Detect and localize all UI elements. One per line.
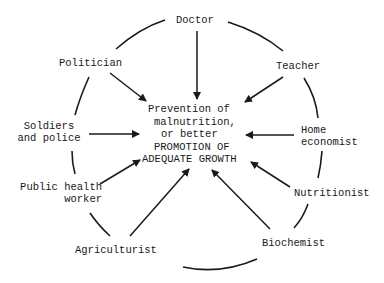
node-doctor: Doctor xyxy=(176,14,214,26)
arc-home-nutritionist xyxy=(318,151,322,178)
arc-politician-doctor xyxy=(116,20,165,49)
arc-soldiers-politician xyxy=(75,77,89,115)
node-public-health-line1: Public health xyxy=(10,181,102,193)
central-goal: Prevention of malnutrition, or better PR… xyxy=(136,103,286,166)
arc-biochemist-agriculturist xyxy=(183,259,257,270)
center-line3: or better xyxy=(161,128,311,141)
node-politician: Politician xyxy=(59,57,122,69)
node-biochemist: Biochemist xyxy=(262,237,325,249)
arc-doctor-teacher xyxy=(228,22,283,51)
arrow-politician xyxy=(110,73,146,101)
arrow-teacher xyxy=(245,77,283,102)
arc-publichealth-soldiers xyxy=(72,151,75,174)
center-line1: Prevention of xyxy=(148,103,298,116)
center-line5: ADEQUATE GROWTH xyxy=(142,153,292,166)
node-public-health-worker: Public health worker xyxy=(10,181,102,205)
node-teacher: Teacher xyxy=(276,60,320,72)
arrow-nutritionist xyxy=(251,162,290,187)
node-soldiers-line1: Soldiers xyxy=(17,120,81,132)
node-agriculturist: Agriculturist xyxy=(75,244,157,256)
arrow-public-health xyxy=(100,160,140,184)
node-soldiers-and-police: Soldiers and police xyxy=(17,120,81,144)
arrow-biochemist xyxy=(212,170,270,229)
center-line2: malnutrition, xyxy=(154,116,304,129)
arc-agriculturist-publichealth xyxy=(90,213,110,236)
arrow-agriculturist xyxy=(130,169,189,236)
node-public-health-line2: worker xyxy=(10,193,102,205)
arc-teacher-home xyxy=(304,78,318,118)
node-nutritionist: Nutritionist xyxy=(294,187,370,199)
node-soldiers-line2: and police xyxy=(17,132,81,144)
arc-nutritionist-biochemist xyxy=(294,204,308,228)
center-line4: PROMOTION OF xyxy=(154,141,304,154)
